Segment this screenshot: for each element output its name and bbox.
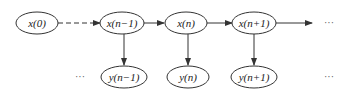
svg-text:x(n+1): x(n+1) [238,17,270,30]
svg-text:y(n): y(n) [178,71,197,84]
svg-text:y(n+1): y(n+1) [238,71,270,84]
node-xn+1: x(n+1) [232,12,276,34]
node-yn+1: y(n+1) [231,66,277,88]
node-yn-1: y(n−1) [101,66,147,88]
svg-text:x(n−1): x(n−1) [106,17,138,30]
ellipsis-top-right: ··· [324,17,334,28]
ellipsis-bottom-right: ··· [324,71,334,82]
svg-text:y(n−1): y(n−1) [108,71,140,84]
svg-text:x(0): x(0) [27,17,46,30]
node-yn: y(n) [167,66,209,88]
node-xn-1: x(n−1) [100,12,144,34]
svg-text:x(n): x(n) [176,17,195,30]
node-xn: x(n) [165,12,207,34]
node-x0: x(0) [16,12,58,34]
ellipsis-bottom-left: ··· [75,71,85,82]
markov-diagram: x(0) x(n−1) x(n) x(n+1) ··· ··· y(n−1) y… [0,0,342,92]
